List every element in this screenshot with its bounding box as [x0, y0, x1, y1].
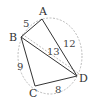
- vertex-label-d: D: [79, 72, 88, 85]
- edge-label-ad: 12: [63, 38, 76, 49]
- geometry-diagram: A B C D 5 12 13 9 8: [0, 0, 97, 104]
- edge-label-cd: 8: [55, 84, 61, 95]
- vertex-label-b: B: [9, 31, 17, 44]
- edge-label-bc: 9: [17, 61, 23, 72]
- vertex-label-a: A: [38, 5, 48, 18]
- vertex-label-c: C: [29, 87, 37, 100]
- edge-label-ab: 5: [23, 18, 29, 29]
- edge-label-bd: 13: [47, 46, 60, 57]
